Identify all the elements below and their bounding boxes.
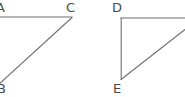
triangles-drawing xyxy=(0,0,185,97)
geometry-figure: A C B D E xyxy=(0,0,185,97)
vertex-label-d: D xyxy=(112,1,122,14)
triangle-abc xyxy=(0,17,72,85)
edge-e-f xyxy=(121,28,185,80)
vertex-label-c: C xyxy=(66,1,75,14)
edge-c-b xyxy=(0,18,72,86)
triangle-def xyxy=(121,18,185,80)
vertex-label-e: E xyxy=(113,82,121,95)
vertex-label-a: A xyxy=(0,1,5,14)
vertex-label-b: B xyxy=(0,82,6,95)
